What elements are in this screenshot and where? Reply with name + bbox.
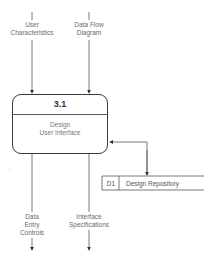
input-label-data-flow-diagram: Data Flow Diagram (68, 21, 110, 37)
stray-dot (9, 168, 10, 169)
flow-design-repository (110, 142, 147, 175)
dfd-canvas: User Characteristics Data Flow Diagram 3… (0, 0, 214, 264)
data-store-id: D1 (103, 177, 119, 190)
process-name: Design User Interface (13, 121, 107, 137)
process-id: 3.1 (13, 95, 107, 115)
output-label-interface-specifications: Interface Specifications (66, 213, 112, 229)
input-label-user-characteristics: User Characteristics (8, 21, 56, 37)
output-label-data-entry-controls: Data Entry Controls (18, 213, 46, 237)
process-box[interactable]: 3.1 Design User Interface (12, 94, 108, 154)
data-store-name: Design Repository (126, 177, 179, 190)
